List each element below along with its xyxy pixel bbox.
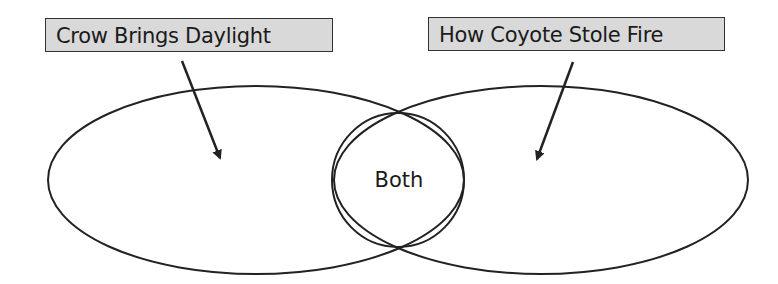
label-crow-brings-daylight: Crow Brings Daylight xyxy=(45,18,333,52)
label-how-coyote-stole-fire: How Coyote Stole Fire xyxy=(428,17,725,51)
right-arrow xyxy=(537,62,573,159)
left-arrow xyxy=(182,61,220,158)
label-both: Both xyxy=(370,166,428,194)
